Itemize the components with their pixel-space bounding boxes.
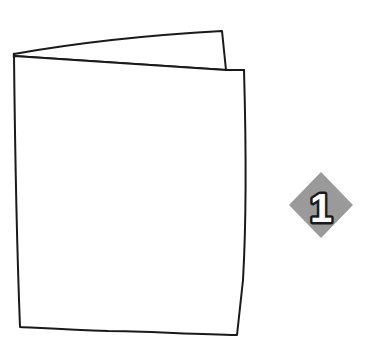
step-badge-number: 1 — [310, 186, 332, 230]
scene-svg: 1 1 — [0, 0, 379, 361]
illustration-canvas: 1 1 Folded greeting card Hand drawn outl… — [0, 0, 379, 361]
card-front-panel — [14, 56, 246, 335]
